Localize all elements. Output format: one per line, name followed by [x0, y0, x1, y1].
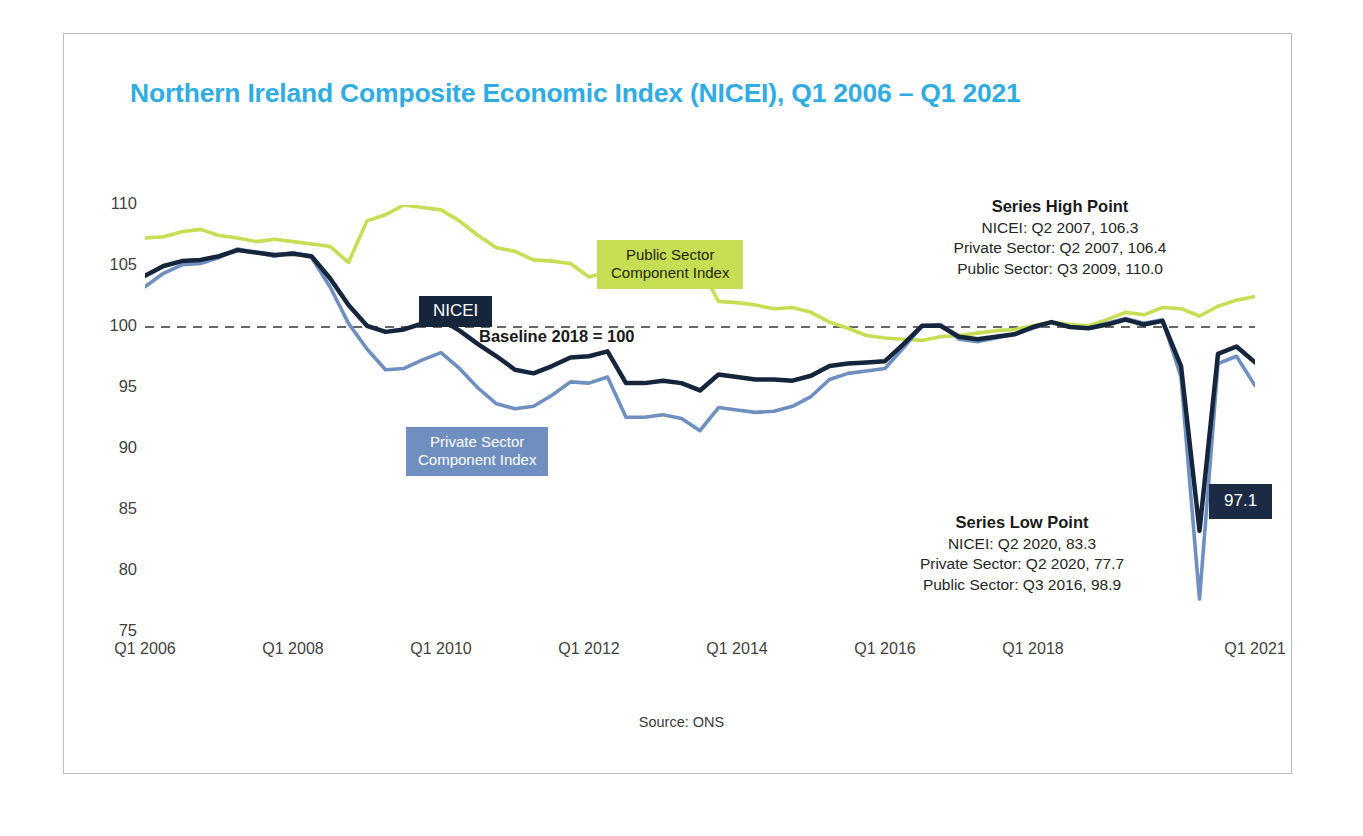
x-axis-tick: Q1 2016 [854, 640, 915, 658]
x-axis-tick-labels: Q1 2006Q1 2008Q1 2010Q1 2012Q1 2014Q1 20… [60, 640, 1320, 670]
series-low-point-line: Private Sector: Q2 2020, 77.7 [892, 554, 1152, 574]
callout-public-line2: Component Index [611, 264, 729, 282]
callout-private-line2: Component Index [418, 451, 536, 469]
series-line-nicei [145, 250, 1255, 531]
y-axis-tick: 110 [91, 194, 137, 213]
x-axis-tick: Q1 2021 [1224, 640, 1285, 658]
y-axis-tick-labels: 1101051009590858075 [85, 205, 137, 632]
source-note: Source: ONS [0, 714, 1363, 730]
x-axis-tick: Q1 2014 [706, 640, 767, 658]
series-high-point-line: Public Sector: Q3 2009, 110.0 [905, 259, 1215, 279]
callout-nicei-label: NICEI [433, 301, 478, 320]
y-axis-tick: 90 [91, 438, 137, 457]
y-axis-tick: 100 [91, 316, 137, 335]
callout-private-line1: Private Sector [418, 433, 536, 451]
x-axis-tick: Q1 2008 [262, 640, 323, 658]
series-low-point-annotation: Series Low Point NICEI: Q2 2020, 83.3 Pr… [892, 512, 1152, 595]
callout-public-sector: Public Sector Component Index [597, 240, 743, 289]
series-high-point-line: Private Sector: Q2 2007, 106.4 [905, 238, 1215, 258]
baseline-label: Baseline 2018 = 100 [479, 327, 635, 346]
x-axis-tick: Q1 2006 [114, 640, 175, 658]
series-high-point-line: NICEI: Q2 2007, 106.3 [905, 218, 1215, 238]
latest-value-label: 97.1 [1224, 491, 1257, 510]
series-high-point-annotation: Series High Point NICEI: Q2 2007, 106.3 … [905, 196, 1215, 279]
x-axis-tick: Q1 2010 [410, 640, 471, 658]
callout-nicei: NICEI [419, 296, 492, 327]
series-high-point-heading: Series High Point [905, 196, 1215, 218]
series-low-point-heading: Series Low Point [892, 512, 1152, 534]
page-title: Northern Ireland Composite Economic Inde… [130, 78, 1230, 109]
chart-page: Northern Ireland Composite Economic Inde… [0, 0, 1363, 836]
x-axis-tick: Q1 2018 [1002, 640, 1063, 658]
series-low-point-line: Public Sector: Q3 2016, 98.9 [892, 575, 1152, 595]
y-axis-tick: 105 [91, 255, 137, 274]
series-low-point-line: NICEI: Q2 2020, 83.3 [892, 534, 1152, 554]
callout-public-line1: Public Sector [611, 246, 729, 264]
y-axis-tick: 85 [91, 499, 137, 518]
x-axis-tick: Q1 2012 [558, 640, 619, 658]
y-axis-tick: 80 [91, 560, 137, 579]
y-axis-tick: 95 [91, 377, 137, 396]
callout-private-sector: Private Sector Component Index [406, 427, 548, 476]
y-axis-tick: 75 [91, 621, 137, 640]
latest-value-badge: 97.1 [1209, 484, 1272, 519]
